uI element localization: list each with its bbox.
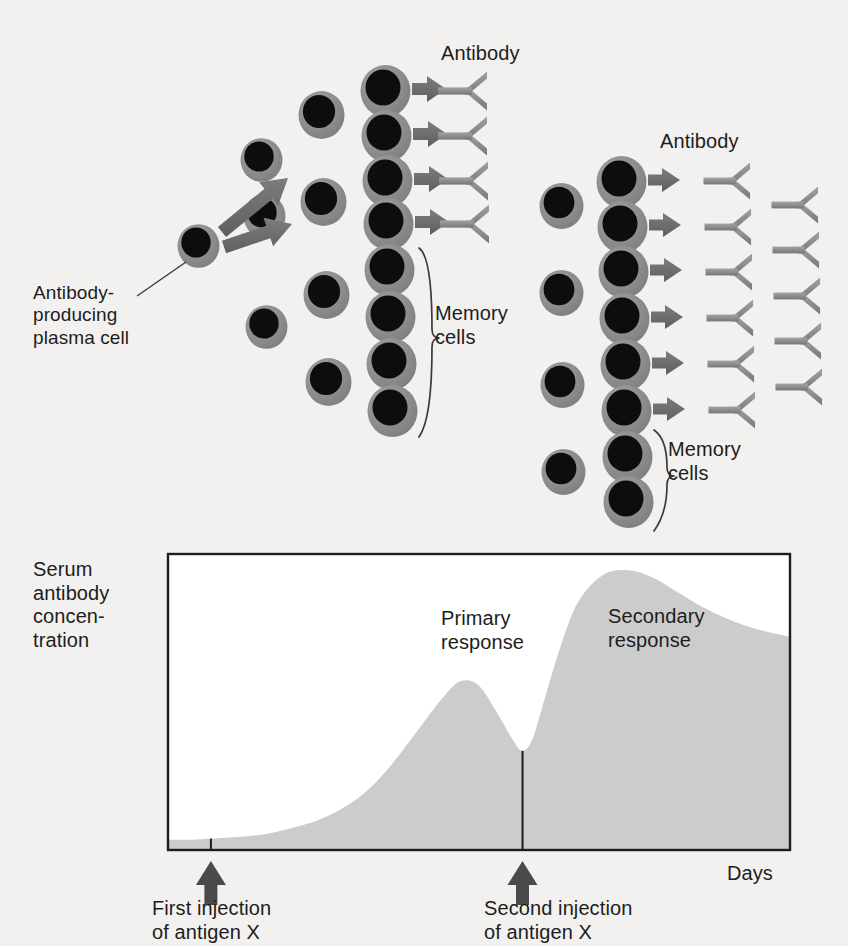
secondary-response-annotation: Secondary response — [608, 605, 705, 652]
left-cell-col2-0-nucleus — [244, 141, 273, 171]
antibody-right-inner-3-stem — [707, 315, 736, 322]
antibody-right-inner-2-hinge — [731, 269, 738, 276]
y-axis-label-line1: Serum — [33, 558, 109, 582]
right-cell-col2-5-nucleus — [607, 390, 642, 426]
left-cell-col2-2 — [246, 305, 288, 349]
y-axis-label-line3: concen- — [33, 605, 109, 629]
left-cell-col4-2-nucleus — [368, 160, 403, 196]
antibody-left-3 — [440, 204, 489, 243]
antibody-right-outer-2-stem — [774, 293, 803, 300]
right-cell-col2-1 — [598, 201, 648, 253]
secondary-response-line2: response — [608, 629, 705, 653]
antibody-left-1 — [438, 116, 487, 155]
antibody-right-inner-0 — [704, 162, 751, 199]
secretion-arrow-right-1 — [649, 213, 681, 237]
left-cell-col3-1 — [301, 178, 347, 226]
primary-response-line2: response — [441, 631, 524, 655]
right-cell-col2-7-nucleus — [609, 481, 644, 517]
antibody-right-outer-4 — [776, 368, 823, 405]
antibody-right-outer-1-stem — [773, 247, 802, 254]
left-cell-col4-0 — [361, 65, 411, 117]
antibody-right-inner-1 — [705, 208, 752, 245]
plasma-cell-label-line2: producing — [33, 304, 129, 326]
plasma-cell-leader-line — [137, 262, 186, 296]
right-cell-col2-6-nucleus — [608, 436, 643, 472]
right-cell-col2-3-nucleus — [605, 298, 640, 334]
right-cell-col1-0-nucleus — [544, 187, 575, 219]
antibody-right-inner-4 — [708, 345, 755, 382]
secretion-arrow-right-4 — [652, 351, 684, 375]
antibody-left-2-hinge — [466, 177, 473, 184]
antibody-right-outer-0-hinge — [797, 202, 804, 209]
left-cell-col3-2-nucleus — [308, 275, 340, 308]
left-cell-col3-0 — [299, 91, 345, 139]
antibody-right-inner-5-hinge — [734, 407, 741, 414]
primary-response-annotation: Primary response — [441, 607, 524, 654]
antibody-right-outer-3-hinge — [800, 338, 807, 345]
antibody-left-1-hinge — [465, 132, 472, 139]
left-cell-col4-3-nucleus — [369, 203, 404, 239]
y-axis-label-line4: tration — [33, 629, 109, 653]
plasma-cell-source-nucleus — [181, 227, 210, 257]
antibody-right-outer-0-stem — [772, 202, 801, 209]
first-injection-label: First injection of antigen X — [152, 897, 271, 944]
left-cell-col3-3-nucleus — [310, 362, 342, 395]
antibody-right-inner-3-hinge — [732, 315, 739, 322]
antibody-right-inner-2-stem — [706, 269, 735, 276]
left-cell-col4-7 — [368, 385, 418, 437]
left-cell-col3-0-nucleus — [303, 95, 335, 128]
antibody-right-outer-4-stem — [776, 384, 805, 391]
left-cell-col4-6-nucleus — [372, 343, 407, 379]
first-injection-line2: of antigen X — [152, 921, 271, 945]
antibody-right-outer-3 — [775, 322, 822, 359]
left-cell-col4-5 — [366, 291, 416, 343]
y-axis-label-line2: antibody — [33, 582, 109, 606]
right-cell-col1-3-nucleus — [546, 453, 577, 485]
memory-cells-label-right-line2: cells — [668, 462, 741, 486]
right-cell-col1-2 — [541, 362, 585, 408]
right-cell-col1-2-nucleus — [545, 366, 576, 398]
left-cell-col3-3 — [306, 358, 352, 406]
left-cell-col4-4-nucleus — [370, 249, 405, 285]
plasma-cell-label: Antibody- producing plasma cell — [33, 282, 129, 349]
right-cell-col1-0 — [540, 183, 584, 229]
right-cell-col2-1-nucleus — [603, 206, 638, 242]
right-cell-col2-5 — [602, 385, 652, 437]
antibody-left-2 — [439, 161, 488, 200]
second-injection-label: Second injection of antigen X — [484, 897, 632, 944]
antibody-right-outer-1-hinge — [798, 247, 805, 254]
first-injection-line1: First injection — [152, 897, 271, 921]
left-cell-col2-0 — [241, 138, 283, 182]
antibody-left-2-stem — [439, 177, 469, 184]
immune-response-figure: Antibody Antibody Memory cells Memory ce… — [0, 0, 848, 946]
antibody-label-left: Antibody — [441, 42, 520, 66]
right-cell-col2-3 — [600, 293, 650, 345]
left-cell-col4-1-nucleus — [367, 115, 402, 151]
right-cell-col2-2-nucleus — [604, 251, 639, 287]
secretion-arrow-right-5 — [653, 397, 685, 421]
memory-cells-label-left: Memory cells — [435, 302, 508, 349]
antibody-right-inner-1-stem — [705, 224, 734, 231]
antibody-right-outer-2 — [774, 277, 821, 314]
antibody-right-outer-2-hinge — [799, 293, 806, 300]
secretion-arrow-right-3 — [651, 305, 683, 329]
second-injection-line2: of antigen X — [484, 921, 632, 945]
right-cell-col2-7 — [604, 476, 654, 528]
left-cell-col2-2-nucleus — [249, 308, 278, 338]
secondary-response-line1: Secondary — [608, 605, 705, 629]
antibody-right-outer-1 — [773, 231, 820, 268]
antibody-right-inner-5-stem — [709, 407, 738, 414]
antibody-left-0 — [438, 71, 487, 110]
left-cell-col4-4 — [365, 244, 415, 296]
plasma-cell-source — [178, 224, 220, 268]
right-cell-col2-0-nucleus — [602, 161, 637, 197]
y-axis-label: Serum antibody concen- tration — [33, 558, 109, 652]
antibody-right-outer-0 — [772, 186, 819, 223]
right-cell-col2-6 — [603, 431, 653, 483]
x-axis-label: Days — [727, 862, 773, 886]
secretion-arrow-right-0 — [648, 168, 680, 192]
memory-cells-label-right-line1: Memory — [668, 438, 741, 462]
antibody-right-inner-4-stem — [708, 361, 737, 368]
left-cell-col3-1-nucleus — [305, 182, 337, 215]
second-injection-line1: Second injection — [484, 897, 632, 921]
